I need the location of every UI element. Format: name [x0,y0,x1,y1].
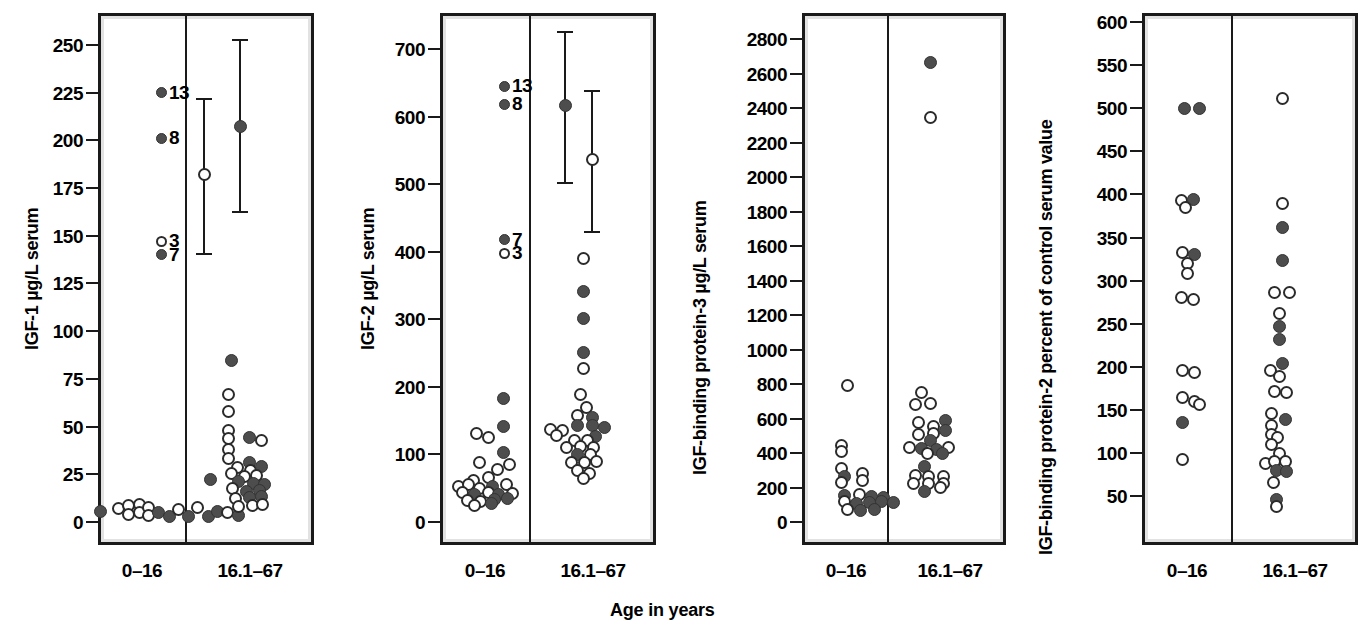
data-point-filled [485,497,498,510]
error-bar-cap-upper [196,98,212,100]
y-tick-mark [790,521,802,523]
y-tick-mark [428,386,440,388]
panel-3-y-axis: 0200400600800100012001400160018002000220… [668,0,802,625]
y-tick-mark [790,142,802,144]
data-point-open [934,481,947,494]
error-bar-mean-marker-open [198,168,211,181]
y-tick-label: 2000 [747,168,787,187]
y-tick-mark [86,473,98,475]
y-tick-label: 800 [757,375,787,394]
data-point-filled [497,420,510,433]
panel-1-x-label-group-1: 0–16 [102,560,182,582]
data-point-open [1176,453,1189,466]
y-tick-label: 125 [53,274,83,293]
error-bar-cap-upper [557,31,573,33]
y-tick-mark [790,418,802,420]
data-point-open [924,111,937,124]
y-tick-label: 200 [757,479,787,498]
y-tick-mark [86,187,98,189]
y-tick-mark [1130,237,1142,239]
y-tick-mark [428,116,440,118]
y-tick-label: 1400 [747,272,787,291]
y-tick-mark [86,330,98,332]
data-point-open [1280,386,1293,399]
data-point-filled [94,505,107,518]
data-point-open [473,456,486,469]
data-point-open [1176,364,1189,377]
data-point-filled [918,485,931,498]
data-point-filled [868,503,881,516]
data-point-filled [577,312,590,325]
y-tick-mark [1130,323,1142,325]
data-point-open [550,429,563,442]
figure-x-axis-title: Age in years [610,600,715,621]
data-point-open [503,458,516,471]
data-point-open [222,405,235,418]
data-point-open [256,498,269,511]
error-bar-mean-marker-filled [234,120,247,133]
y-tick-label: 225 [53,84,83,103]
annotated-point-label: 8 [512,94,522,113]
data-point-open [574,388,587,401]
y-tick-mark [86,282,98,284]
y-tick-mark [86,139,98,141]
panel-3-x-label-group-2: 16.1–67 [890,560,1010,582]
y-tick-label: 450 [1097,142,1127,161]
y-tick-mark [790,452,802,454]
data-point-filled [501,492,514,505]
y-tick-label: 400 [395,243,425,262]
y-tick-mark [86,44,98,46]
y-tick-mark [1130,280,1142,282]
y-tick-mark [86,521,98,523]
y-tick-label: 300 [1097,272,1127,291]
error-bar-cap-lower [232,211,248,213]
data-point-filled [577,285,590,298]
data-point-open [1273,307,1286,320]
data-point-filled [204,473,217,486]
data-point-open [1268,286,1281,299]
y-tick-label: 150 [1097,401,1127,420]
annotated-point-marker-filled [499,234,510,245]
y-tick-label: 300 [395,310,425,329]
data-point-filled [936,447,949,460]
panel-2-plot-area: 13873 [440,13,656,545]
y-tick-mark [86,378,98,380]
y-tick-label: 175 [53,179,83,198]
panel-4-y-axis: 50100150200250300350400450500550600 [1014,0,1142,625]
y-tick-label: 700 [395,40,425,59]
y-tick-mark [790,176,802,178]
data-point-open [909,398,922,411]
y-tick-mark [1130,409,1142,411]
data-point-open [482,431,495,444]
y-tick-mark [790,383,802,385]
data-point-open [841,503,854,516]
y-tick-label: 2600 [747,65,787,84]
y-tick-mark [790,314,802,316]
y-tick-label: 200 [1097,358,1127,377]
data-point-filled [924,56,937,69]
y-tick-mark [1130,107,1142,109]
y-tick-mark [86,426,98,428]
panel-4-x-label-group-1: 0–16 [1147,560,1227,582]
panel-4-x-label-group-2: 16.1–67 [1235,560,1355,582]
data-point-filled [1273,333,1286,346]
data-point-filled [887,496,900,509]
y-tick-label: 0 [415,513,425,532]
panel-2-x-label-group-1: 0–16 [445,560,525,582]
annotated-point-label: 13 [512,76,532,95]
error-bar-mean-marker-open [586,153,599,166]
y-tick-mark [86,235,98,237]
data-point-open [1193,398,1206,411]
error-bar-cap-lower [584,231,600,233]
data-point-filled [1279,413,1292,426]
y-tick-label: 2200 [747,134,787,153]
annotated-point-marker-filled [156,133,167,144]
y-tick-mark [1130,495,1142,497]
data-point-filled [1273,320,1286,333]
y-tick-label: 100 [1097,444,1127,463]
y-tick-label: 25 [63,465,83,484]
data-point-filled [577,346,590,359]
annotated-point-label: 8 [169,128,179,147]
data-point-open [1179,201,1192,214]
panel-1-plot-area: 13837 [98,13,314,545]
